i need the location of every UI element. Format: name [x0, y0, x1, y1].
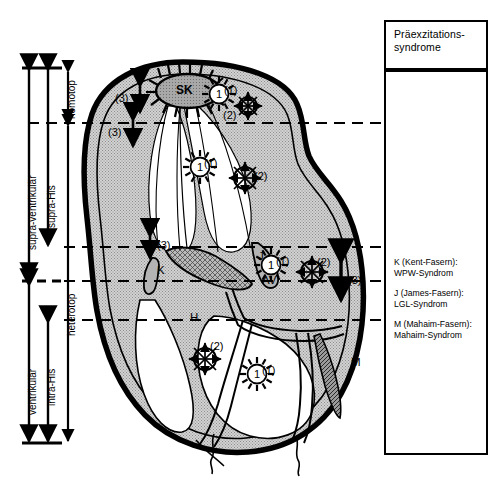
james-fiber-label: J — [258, 250, 264, 263]
marker-label-2a: (2) — [223, 109, 236, 121]
svg-text:1: 1 — [268, 259, 274, 271]
legend-mahaim-line1: M (Mahaim-Fasern): — [394, 320, 472, 330]
marker-label-2d: (2) — [210, 340, 223, 352]
axis-label-intra-his: intra-His — [46, 369, 57, 406]
purkinje-fibers-right — [296, 436, 299, 476]
axis-label-nomotop: nomotop — [66, 80, 77, 119]
legend-header-line2: syndrome — [394, 42, 441, 54]
axis-label-supraventrikulaer: supra-ventrikulär — [27, 176, 38, 250]
sinus-node-label: SK — [176, 84, 193, 97]
axis-label-supra-his: supra-His — [46, 185, 57, 228]
av-node-label: AV — [262, 274, 277, 287]
svg-text:1: 1 — [197, 161, 203, 173]
svg-text:1: 1 — [216, 88, 222, 100]
legend-mahaim-line2: Mahaim-Syndrom — [394, 331, 462, 341]
axis-label-ventrikulaer: ventrikulär — [27, 369, 38, 415]
legend-james-line1: J (James-Fasern): — [394, 289, 464, 299]
marker-label-3a: (3) — [115, 92, 128, 104]
legend-header-line1: Präexzitations- — [394, 29, 465, 41]
marker-label-1a: (1) — [224, 84, 237, 96]
legend-kent-line1: K (Kent-Fasern): — [394, 258, 458, 268]
marker-label-3d: (3) — [348, 274, 361, 286]
marker-label-1b: (1) — [204, 157, 217, 169]
svg-text:1: 1 — [254, 368, 260, 380]
marker-label-2c: (2) — [317, 256, 330, 268]
marker-label-1d: (1) — [262, 364, 275, 376]
marker-label-2b: (2) — [254, 170, 267, 182]
legend-body-box: K (Kent-Fasern): WPW-Syndrom J (James-Fa… — [384, 70, 488, 455]
legend-header-box: Präexzitations- syndrome — [384, 20, 488, 70]
his-bundle-label: H — [190, 311, 198, 324]
legend-kent-line2: WPW-Syndrom — [394, 269, 453, 279]
marker-label-3b: (3) — [108, 126, 121, 138]
marker-label-3c: (3) — [157, 239, 170, 251]
diagram-canvas: 1 1 — [0, 0, 494, 481]
legend-james-line2: LGL-Syndrom — [394, 300, 448, 310]
marker-label-1c: (1) — [276, 255, 289, 267]
kent-fiber-label: K — [157, 264, 165, 277]
mahaim-fiber-label: M — [351, 356, 361, 369]
axis-label-heterotop: heterotop — [66, 294, 77, 336]
